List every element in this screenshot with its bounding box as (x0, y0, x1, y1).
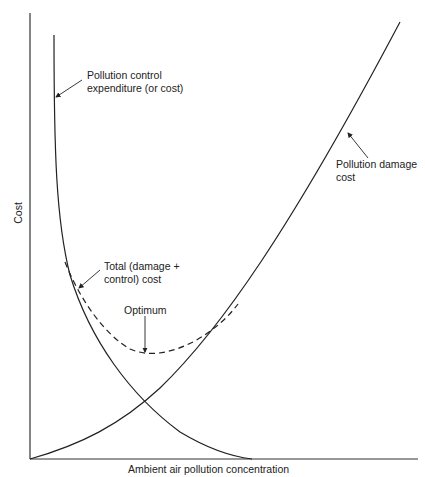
chart-canvas (0, 0, 425, 477)
control-label-1: Pollution control (87, 69, 162, 82)
damage-cost-curve (30, 22, 400, 459)
y-axis-label: Cost (12, 198, 24, 228)
total-label-2: control) cost (104, 273, 161, 286)
optimum-label: Optimum (124, 304, 167, 317)
total-label-1: Total (damage + (104, 260, 180, 273)
x-axis-label: Ambient air pollution concentration (128, 463, 289, 475)
control-label-2: expenditure (or cost) (87, 82, 183, 95)
damage-arrow (348, 133, 368, 158)
total-arrow (79, 270, 100, 288)
control-arrow (56, 80, 82, 97)
damage-label-1: Pollution damage (336, 158, 417, 171)
control-cost-curve (54, 35, 252, 459)
damage-label-2: cost (336, 171, 355, 184)
